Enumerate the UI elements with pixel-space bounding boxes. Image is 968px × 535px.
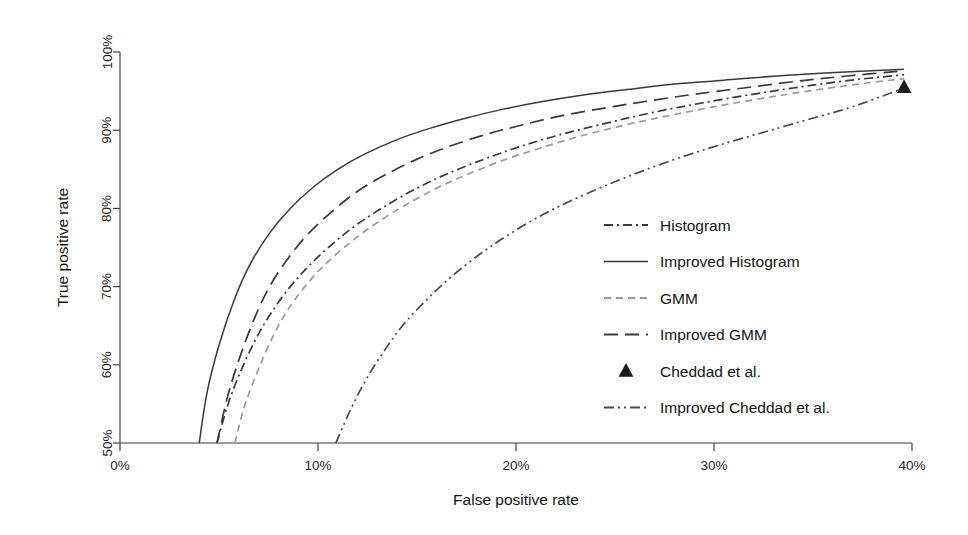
legend: HistogramImproved HistogramGMMImproved G… bbox=[604, 217, 830, 417]
y-axis-title: True positive rate bbox=[54, 188, 71, 307]
curve-improved-cheddad-et-al bbox=[336, 88, 904, 443]
curve-gmm bbox=[235, 79, 904, 443]
x-tick-label: 0% bbox=[110, 458, 130, 473]
legend-item-gmm: GMM bbox=[604, 290, 698, 307]
roc-plot: 50%60%70%80%90%100%0%10%20%30%40% Histog… bbox=[0, 0, 968, 535]
legend-triangle-icon bbox=[619, 363, 634, 377]
legend-label: Histogram bbox=[660, 217, 731, 234]
roc-curve-figure: 50%60%70%80%90%100%0%10%20%30%40% Histog… bbox=[0, 0, 968, 535]
x-tick-label: 20% bbox=[502, 458, 529, 473]
legend-item-improved-gmm: Improved GMM bbox=[604, 326, 767, 343]
y-tick-label: 90% bbox=[100, 117, 115, 144]
y-tick-label: 50% bbox=[100, 429, 115, 456]
legend-label: GMM bbox=[660, 290, 698, 307]
data-point-markers bbox=[897, 79, 912, 93]
curve-histogram bbox=[217, 75, 904, 443]
x-tick-label: 30% bbox=[700, 458, 727, 473]
marker-cheddad-et-al bbox=[897, 79, 912, 93]
legend-item-improved-histogram: Improved Histogram bbox=[604, 253, 800, 270]
legend-item-histogram: Histogram bbox=[604, 217, 731, 234]
x-axis-title: False positive rate bbox=[453, 491, 579, 508]
y-tick-label: 100% bbox=[100, 35, 115, 70]
x-tick-label: 40% bbox=[898, 458, 925, 473]
curve-improved-gmm bbox=[217, 71, 904, 443]
y-tick-label: 70% bbox=[100, 273, 115, 300]
y-tick-label: 60% bbox=[100, 351, 115, 378]
x-tick-label: 10% bbox=[304, 458, 331, 473]
legend-item-cheddad-et-al: Cheddad et al. bbox=[619, 363, 761, 380]
legend-label: Improved Histogram bbox=[660, 253, 800, 270]
legend-label: Improved GMM bbox=[660, 326, 767, 343]
legend-label: Cheddad et al. bbox=[660, 363, 761, 380]
legend-label: Improved Cheddad et al. bbox=[660, 399, 830, 416]
legend-item-improved-cheddad-et-al: Improved Cheddad et al. bbox=[604, 399, 830, 416]
y-tick-label: 80% bbox=[100, 195, 115, 222]
